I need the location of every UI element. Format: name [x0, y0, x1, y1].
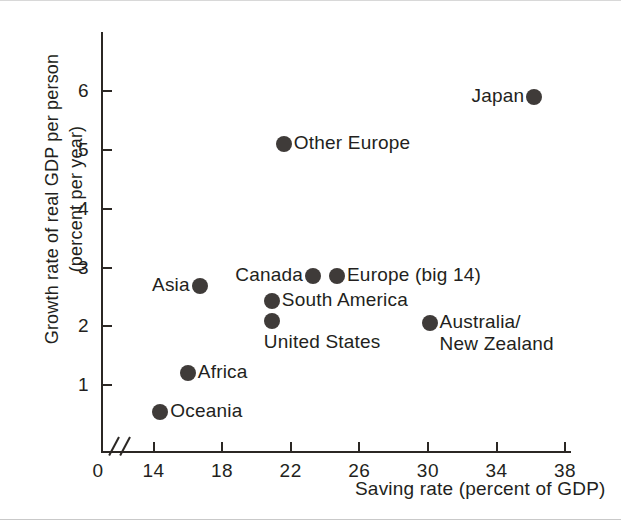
- x-axis-title: Saving rate (percent of GDP): [355, 478, 606, 500]
- data-point-japan[interactable]: [526, 89, 542, 105]
- x-axis-break-icon: [112, 437, 142, 457]
- x-tick-38: [564, 442, 566, 452]
- y-tick-label-1: 1: [63, 375, 89, 394]
- axis-origin-label: 0: [78, 461, 118, 480]
- x-tick-22: [290, 442, 292, 452]
- data-point-label-other-europe: Other Europe: [294, 132, 410, 154]
- data-point-canada[interactable]: [305, 268, 321, 284]
- x-tick-30: [427, 442, 429, 452]
- data-point-other-europe[interactable]: [276, 136, 292, 152]
- x-tick-18: [221, 442, 223, 452]
- x-tick-label-14: 14: [134, 461, 174, 480]
- data-point-label-africa: Africa: [198, 361, 248, 383]
- x-tick-label-22: 22: [271, 461, 311, 480]
- data-point-united-states[interactable]: [264, 313, 280, 329]
- x-tick-14: [153, 442, 155, 452]
- y-tick-1: [103, 384, 112, 386]
- y-tick-5: [103, 149, 112, 151]
- y-axis-line: [101, 32, 103, 453]
- figure-bottom-rule: [0, 519, 621, 520]
- x-tick-34: [496, 442, 498, 452]
- data-point-australia-new-zealand[interactable]: [422, 315, 438, 331]
- x-tick-label-18: 18: [202, 461, 242, 480]
- data-point-label-south-america: South America: [282, 289, 408, 311]
- scatter-chart: 123456 14182226303438 JapanOther EuropeE…: [0, 0, 621, 529]
- y-axis-title: Growth rate of real GDP per person (perc…: [40, 49, 88, 349]
- data-point-label-australia-new-zealand: Australia/ New Zealand: [440, 311, 554, 355]
- data-point-south-america[interactable]: [264, 293, 280, 309]
- y-tick-3: [103, 267, 112, 269]
- data-point-label-united-states: United States: [264, 331, 381, 353]
- x-axis-line: [101, 451, 571, 453]
- y-tick-4: [103, 208, 112, 210]
- data-point-label-japan: Japan: [471, 85, 524, 107]
- y-tick-6: [103, 90, 112, 92]
- data-point-africa[interactable]: [180, 365, 196, 381]
- data-point-label-canada: Canada: [235, 264, 303, 286]
- y-tick-2: [103, 325, 112, 327]
- y-axis-title-line1: Growth rate of real GDP per person: [40, 49, 64, 349]
- data-point-oceania[interactable]: [152, 404, 168, 420]
- data-point-label-oceania: Oceania: [170, 400, 242, 422]
- figure-top-rule: [0, 0, 621, 1]
- data-point-asia[interactable]: [192, 278, 208, 294]
- y-axis-title-line2: (percent per year): [64, 49, 88, 349]
- data-point-europe-big-14[interactable]: [329, 268, 345, 284]
- data-point-label-asia: Asia: [152, 274, 190, 296]
- x-tick-26: [358, 442, 360, 452]
- data-point-label-europe-big-14: Europe (big 14): [347, 264, 481, 286]
